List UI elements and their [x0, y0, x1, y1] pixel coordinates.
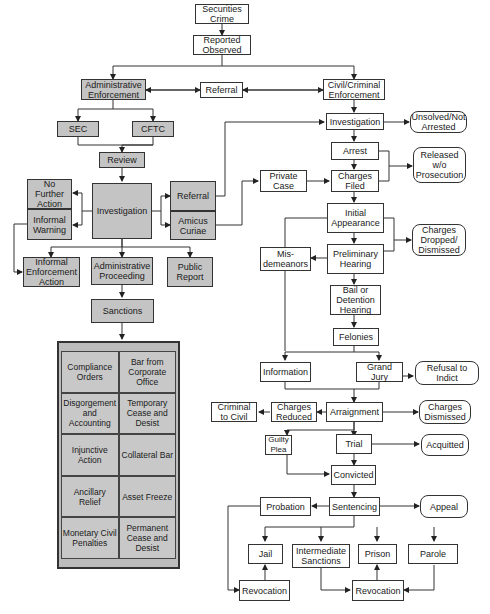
- node-intermediate-sanctions: Intermediate Sanctions: [292, 544, 350, 568]
- sanction-injunctive-action: Injunctive Action: [61, 434, 119, 476]
- sanction-compliance-orders: Compliance Orders: [61, 351, 119, 393]
- node-private-case: Private Case: [260, 170, 307, 192]
- node-charges-dismissed: Charges Dismissed: [419, 400, 471, 424]
- node-sentencing: Sentencing: [329, 497, 380, 516]
- node-charges-reduced: Charges Reduced: [271, 402, 317, 422]
- node-bail-detention-hearing: Bail or Detention Hearing: [330, 285, 381, 315]
- node-referral-admin: Referral: [170, 181, 216, 211]
- node-trial: Trial: [336, 434, 372, 454]
- node-referral-top: Referral: [200, 82, 243, 98]
- node-refusal-to-indict: Refusal to Indict: [415, 361, 479, 385]
- node-revocation-right: Revocation: [352, 580, 404, 601]
- node-amicus-curiae: Amicus Curiae: [170, 211, 216, 240]
- node-securities-crime: Securities Crime: [195, 4, 249, 24]
- node-arrest: Arrest: [331, 142, 379, 160]
- node-cftc: CFTC: [132, 121, 174, 137]
- node-arraignment: Arraignment: [326, 402, 383, 422]
- node-investigation: Investigation: [326, 113, 384, 130]
- sanction-permanent-cease-desist: Permanent Cease and Desist: [119, 517, 177, 559]
- node-appeal: Appeal: [420, 495, 468, 518]
- node-information: Information: [260, 362, 311, 382]
- sanction-monetary-civil-penalties: Monetary Civil Penalties: [61, 517, 119, 559]
- node-admin-investigation: Investigation: [92, 183, 152, 239]
- node-revocation-left: Revocation: [239, 580, 290, 601]
- node-informal-enforcement-action: Informal Enforcement Action: [23, 257, 80, 287]
- node-charges-filed: Charges Filed: [331, 170, 379, 192]
- node-felonies: Felonies: [333, 328, 379, 346]
- node-grand-jury: Grand Jury: [356, 362, 403, 382]
- sanction-asset-freeze: Asset Freeze: [119, 476, 177, 518]
- node-parole: Parole: [408, 544, 458, 564]
- node-sanctions: Sanctions: [91, 299, 154, 323]
- node-reported-observed: Reported Observed: [193, 35, 251, 55]
- node-initial-appearance: Initial Appearance: [327, 203, 384, 233]
- node-released-without-prosecution: Released w/o Prosecution: [413, 147, 466, 183]
- node-convicted: Convicted: [331, 465, 376, 485]
- node-misdemeanors: Mis- demeanors: [260, 247, 311, 271]
- node-criminal-to-civil: Criminal to Civil: [211, 402, 257, 422]
- node-sec: SEC: [57, 121, 99, 137]
- sanction-bar-corporate-office: Bar from Corporate Office: [119, 351, 177, 393]
- sanctions-table: Compliance Orders Bar from Corporate Off…: [57, 341, 180, 569]
- sanction-ancillary-relief: Ancillary Relief: [61, 476, 119, 518]
- node-prison: Prison: [358, 544, 397, 564]
- sanction-disgorgement: Disgorgement and Accounting: [61, 393, 119, 435]
- node-guilty-plea: Guilty Plea: [265, 435, 292, 455]
- sanction-collateral-bar: Collateral Bar: [119, 434, 177, 476]
- node-administrative-enforcement: Administrative Enforcement: [81, 79, 146, 100]
- node-review: Review: [99, 152, 145, 168]
- node-jail: Jail: [248, 544, 283, 564]
- sanction-temporary-cease-desist: Temporary Cease and Desist: [119, 393, 177, 435]
- node-civil-criminal-enforcement: Civil/Criminal Enforcement: [323, 79, 385, 100]
- node-probation: Probation: [260, 497, 311, 516]
- node-public-report: Public Report: [167, 257, 213, 287]
- node-administrative-proceeding: Administrative Proceeding: [91, 257, 153, 285]
- node-preliminary-hearing: Preliminary Hearing: [327, 244, 384, 274]
- node-unsolved-not-arrested: Unsolved/Not Arrested: [410, 111, 467, 133]
- node-charges-dropped-dismissed: Charges Dropped/ Dismissed: [412, 224, 466, 256]
- node-no-further-action: No Further Action: [27, 179, 72, 209]
- node-acquitted: Acquitted: [421, 434, 469, 456]
- node-informal-warning: Informal Warning: [27, 209, 72, 240]
